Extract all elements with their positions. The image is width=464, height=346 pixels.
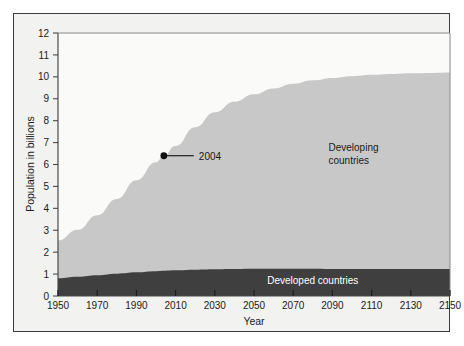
series-label-developing-line1: Developing: [328, 142, 378, 153]
y-tick-label: 8: [43, 115, 49, 126]
y-axis-ticks: 0123456789101112: [38, 28, 58, 302]
x-tick-label: 2030: [204, 300, 227, 311]
series-label-developing-line2: countries: [328, 155, 369, 166]
y-tick-label: 10: [38, 71, 50, 82]
figure-container: 0123456789101112 19501970199020102030205…: [0, 0, 464, 346]
y-axis-title: Population in billions: [24, 116, 36, 212]
x-tick-label: 2010: [164, 300, 187, 311]
y-tick-label: 4: [43, 203, 49, 214]
x-tick-label: 1950: [47, 300, 70, 311]
x-tick-label: 1970: [86, 300, 109, 311]
x-tick-label: 2090: [321, 300, 344, 311]
y-tick-label: 2: [43, 247, 49, 258]
y-tick-label: 7: [43, 137, 49, 148]
y-tick-label: 1: [43, 269, 49, 280]
x-tick-label: 2050: [243, 300, 266, 311]
x-tick-label: 2130: [400, 300, 423, 311]
y-tick-label: 3: [43, 225, 49, 236]
y-tick-label: 9: [43, 93, 49, 104]
population-area-chart: 0123456789101112 19501970199020102030205…: [0, 0, 464, 346]
x-tick-label: 2070: [282, 300, 305, 311]
x-tick-label: 2150: [439, 300, 462, 311]
y-tick-label: 11: [39, 50, 50, 61]
x-axis-title: Year: [243, 315, 265, 327]
x-tick-label: 2110: [361, 300, 383, 311]
x-tick-label: 1990: [125, 300, 148, 311]
y-tick-label: 6: [43, 159, 49, 170]
annotation-2004-label: 2004: [199, 151, 222, 162]
annotation-marker-dot: [160, 152, 167, 159]
series-label-developed: Developed countries: [267, 275, 358, 286]
y-tick-label: 5: [43, 181, 49, 192]
y-tick-label: 12: [38, 28, 50, 39]
